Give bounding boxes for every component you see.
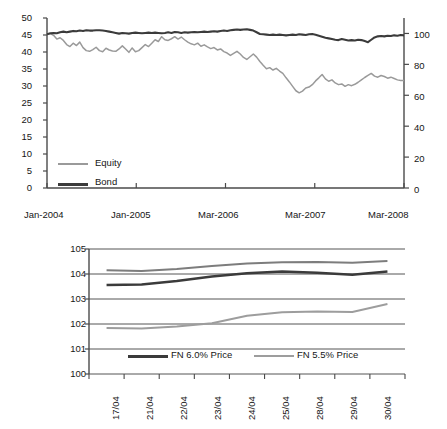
- equity-bond-plot-svg: [0, 0, 447, 224]
- fn-price-plot-svg: [0, 228, 447, 429]
- fn-price-chart: 105 104 103 102 101 100 17/04 21/04 22/0…: [0, 228, 447, 429]
- top-chart-axes: [43, 18, 409, 188]
- series-line-bond: [47, 29, 404, 42]
- series-line-fn65: [107, 261, 388, 271]
- series-line-fn55: [107, 304, 388, 329]
- bottom-chart-axes: [85, 249, 405, 379]
- equity-bond-chart: 50 45 40 35 30 25 20 15 10 5 0 100 80 60…: [0, 0, 447, 224]
- series-line-equity: [47, 34, 404, 93]
